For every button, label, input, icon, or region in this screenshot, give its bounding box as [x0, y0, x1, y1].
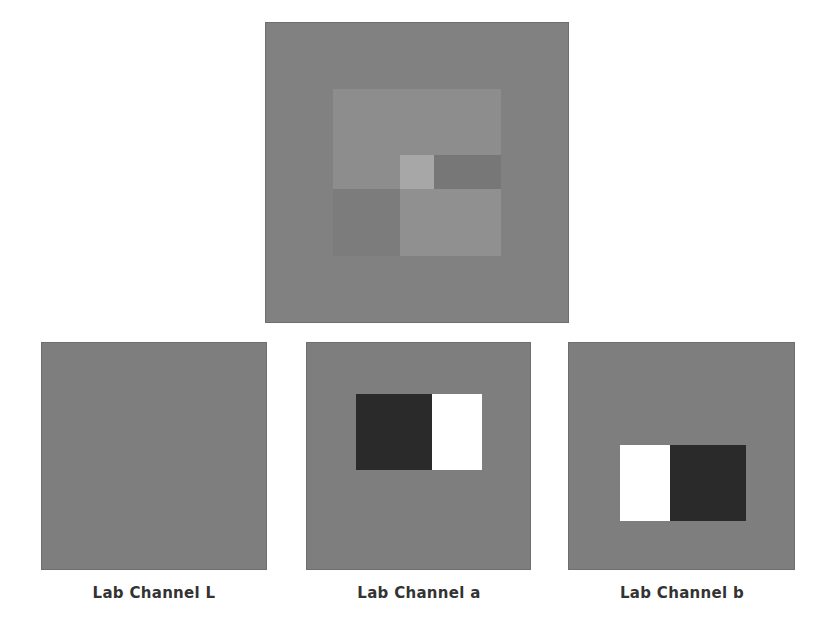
- channel-l-label: Lab Channel L: [24, 584, 284, 602]
- dark-rect: [670, 445, 746, 521]
- channel-b-label: Lab Channel b: [552, 584, 812, 602]
- white-rect: [432, 394, 482, 470]
- channel-l-image: [41, 342, 267, 570]
- lower-rect: [400, 189, 501, 256]
- dark-rect: [356, 394, 432, 470]
- composite-image: [265, 22, 569, 323]
- white-rect: [620, 445, 670, 521]
- channel-b-image: [568, 342, 795, 570]
- light-square: [400, 155, 434, 189]
- channel-a-label: Lab Channel a: [289, 584, 549, 602]
- lower-left-shade: [333, 189, 401, 256]
- channel-a-image: [306, 342, 531, 570]
- dark-strip: [434, 155, 501, 189]
